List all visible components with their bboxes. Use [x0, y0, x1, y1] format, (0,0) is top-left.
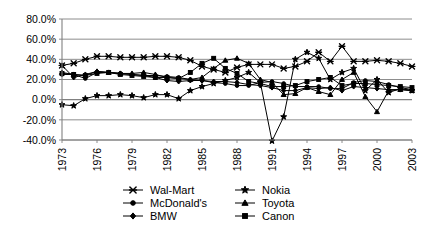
x-axis-tick-label: 1973	[56, 148, 68, 172]
marker-square	[247, 80, 251, 84]
marker-square	[387, 84, 391, 88]
marker-square	[142, 75, 146, 79]
marker-square	[130, 74, 134, 78]
marker-square	[177, 77, 181, 81]
marker-square	[212, 56, 216, 60]
marker-square	[398, 85, 402, 89]
marker-square	[83, 74, 87, 78]
marker-square	[188, 70, 192, 74]
marker-square	[375, 83, 379, 87]
legend-item-label: Canon	[262, 210, 294, 222]
marker-square	[95, 72, 99, 76]
y-axis-tick-label: 60.0%	[26, 33, 56, 45]
marker-square	[107, 70, 111, 74]
y-axis-tick-label: 0.0%	[32, 93, 56, 105]
marker-square	[72, 73, 76, 77]
x-axis-tick-label: 1997	[336, 148, 348, 172]
marker-square	[282, 85, 286, 89]
y-axis-tick-label: -40.0%	[23, 134, 56, 146]
marker-square	[340, 84, 344, 88]
x-axis-tick-label: 1985	[196, 148, 208, 172]
marker-square	[317, 78, 321, 82]
marker-square	[305, 80, 309, 84]
chart-background	[0, 0, 428, 232]
y-axis-tick-label: 20.0%	[26, 73, 56, 85]
marker-square	[270, 85, 274, 89]
x-axis-tick-label: 2000	[371, 148, 383, 172]
marker-square	[235, 72, 239, 76]
marker-square	[153, 76, 157, 80]
line-chart: 80.0%60.0%40.0%20.0%0.0%-20.0%-40.0% 197…	[0, 0, 428, 232]
x-axis-tick-label: 1982	[161, 148, 173, 172]
x-axis-tick-label: 1988	[231, 148, 243, 172]
marker-square	[165, 76, 169, 80]
legend-item-label: McDonald's	[150, 197, 208, 209]
marker-square	[200, 61, 204, 65]
chart-canvas: 80.0%60.0%40.0%20.0%0.0%-20.0%-40.0% 197…	[0, 0, 428, 232]
marker-square	[410, 86, 414, 90]
marker-square	[223, 66, 227, 70]
marker-square	[293, 84, 297, 88]
x-axis-tick-label: 2003	[406, 148, 418, 172]
marker-square	[328, 76, 332, 80]
legend-item-label: Wal-Mart	[150, 184, 194, 196]
marker-square	[118, 73, 122, 77]
legend-item-label: Nokia	[262, 184, 291, 196]
marker-square	[363, 82, 367, 86]
marker-square	[258, 82, 262, 86]
y-axis-tick-label: 40.0%	[26, 53, 56, 65]
x-axis-tick-label: 1991	[266, 148, 278, 172]
x-axis-tick-label: 1994	[301, 148, 313, 172]
legend-item-label: Toyota	[262, 197, 295, 209]
x-axis-tick-label: 1979	[126, 148, 138, 172]
marker-circle	[131, 201, 136, 206]
marker-square	[352, 82, 356, 86]
y-axis-tick-label: -20.0%	[23, 114, 56, 126]
legend-item-label: BMW	[150, 210, 178, 222]
x-axis-tick-label: 1976	[91, 148, 103, 172]
y-axis-tick-label: 80.0%	[26, 13, 56, 25]
marker-square	[243, 214, 248, 219]
